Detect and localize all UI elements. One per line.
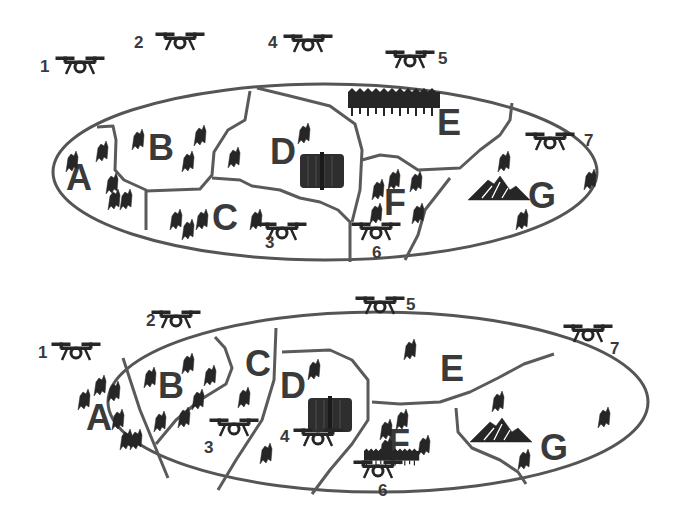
svg-text:6: 6 — [378, 481, 387, 500]
svg-text:4: 4 — [280, 427, 290, 446]
svg-text:5: 5 — [438, 49, 447, 68]
top-region-d-label: D — [270, 131, 296, 172]
svg-text:6: 6 — [372, 243, 381, 262]
bottom-map: A B C D E F G 1 2 3 — [38, 295, 648, 500]
drone-icon — [56, 57, 104, 74]
bottom-building-icon — [308, 396, 352, 434]
svg-text:1: 1 — [40, 57, 49, 76]
drone-icon — [52, 343, 100, 360]
top-region-b-label: B — [148, 127, 174, 168]
top-map: A B C D E F G 1 2 — [40, 33, 597, 262]
svg-text:1: 1 — [38, 343, 47, 362]
top-region-e-label: E — [437, 102, 461, 143]
svg-text:3: 3 — [265, 233, 274, 252]
top-region-g-label: G — [528, 175, 556, 216]
drone-icon — [284, 35, 332, 52]
top-drone-4: 4 — [268, 33, 332, 52]
svg-text:5: 5 — [406, 295, 415, 314]
bottom-region-e-label: E — [440, 348, 464, 389]
bottom-region-d-label: D — [280, 365, 306, 406]
top-drone-5: 5 — [386, 49, 447, 68]
top-building-icon — [300, 152, 344, 190]
bottom-region-c-label: C — [245, 343, 271, 384]
svg-text:7: 7 — [584, 131, 593, 150]
top-drone-1: 1 — [40, 57, 104, 76]
top-drone-2: 2 — [134, 33, 204, 52]
top-region-c-label: C — [212, 197, 238, 238]
bottom-region-g-label: G — [540, 427, 568, 468]
diagram-canvas: A B C D E F G 1 2 — [0, 0, 676, 524]
top-region-f-label: F — [384, 182, 406, 223]
svg-text:3: 3 — [204, 438, 213, 457]
bottom-region-a-label: A — [86, 397, 112, 438]
drone-icon — [152, 311, 200, 328]
svg-text:4: 4 — [268, 33, 278, 52]
bottom-drone-1: 1 — [38, 343, 100, 362]
svg-text:2: 2 — [134, 33, 143, 52]
bottom-region-b-label: B — [158, 365, 184, 406]
drone-icon — [156, 33, 204, 50]
svg-text:7: 7 — [610, 339, 619, 358]
drone-icon — [386, 51, 434, 68]
bottom-drone-2: 2 — [146, 311, 200, 330]
